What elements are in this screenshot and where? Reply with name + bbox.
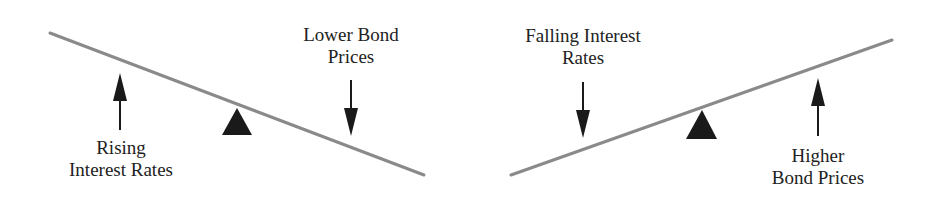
label-falling-interest-rates: Falling Interest Rates	[508, 25, 658, 69]
left-fulcrum-icon	[222, 108, 252, 135]
arrow-up-icon	[811, 78, 825, 136]
label-line: Rising	[58, 137, 184, 159]
arrow-down-icon	[344, 80, 358, 136]
label-rising-interest-rates: Rising Interest Rates	[58, 137, 184, 181]
arrow-down-icon	[576, 82, 590, 138]
label-line: Higher	[758, 145, 878, 167]
label-line: Interest Rates	[58, 159, 184, 181]
label-lower-bond-prices: Lower Bond Prices	[288, 24, 414, 68]
right-fulcrum-icon	[686, 110, 717, 139]
label-line: Prices	[288, 46, 414, 68]
label-line: Rates	[508, 47, 658, 69]
label-line: Bond Prices	[758, 167, 878, 189]
label-higher-bond-prices: Higher Bond Prices	[758, 145, 878, 189]
arrow-up-icon	[113, 73, 127, 130]
label-line: Lower Bond	[288, 24, 414, 46]
label-line: Falling Interest	[508, 25, 658, 47]
